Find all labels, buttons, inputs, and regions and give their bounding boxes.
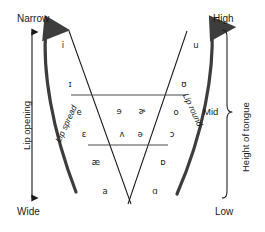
vowel-symbol-open-mid-back-unrounded: ʌ <box>119 130 124 139</box>
vowel-symbol-close-mid-front-unrounded: e <box>76 108 81 117</box>
vowel-symbol-mid-central-r-colored: ɚ <box>139 107 146 116</box>
vowel-symbol-close-mid-back-rounded: o <box>173 108 178 117</box>
height-of-tongue-brace <box>222 30 232 198</box>
vowel-symbol-open-back-unrounded: ɑ <box>152 187 157 196</box>
label-narrow: Narrow <box>17 14 49 24</box>
vowel-symbol-open-front-unrounded: a <box>102 187 107 196</box>
label-high: High <box>213 14 234 24</box>
vowel-symbol-mid-central-schwa: ə <box>137 130 142 139</box>
vowel-symbol-open-mid-front-unrounded: ɛ <box>82 130 87 139</box>
vowel-diagram-svg <box>0 0 265 232</box>
vowel-symbol-open-mid-back-rounded: ɔ <box>170 130 175 139</box>
vowel-chart-figure: Narrow Wide High Low Mid Lip opening Hei… <box>0 0 265 232</box>
vowel-symbol-close-back-rounded: u <box>193 41 198 50</box>
vowel-symbol-open-back-rounded: ɒ <box>160 158 165 167</box>
label-height-of-tongue: Height of tongue <box>241 102 251 172</box>
vowel-symbol-close-mid-central-unrounded: ɘ <box>116 107 121 116</box>
vowel-space-outline <box>69 31 187 204</box>
vowel-symbol-near-open-front-unrounded: æ <box>92 158 100 167</box>
label-wide: Wide <box>17 207 40 217</box>
label-mid: Mid <box>203 107 218 117</box>
vowel-symbol-near-close-back-rounded: ʊ <box>181 80 186 89</box>
vowel-symbol-near-close-front-unrounded: ɪ <box>68 80 71 89</box>
vowel-symbol-close-front-unrounded: i <box>62 41 64 50</box>
label-lip-opening: Lip opening <box>22 101 32 150</box>
label-low: Low <box>215 207 233 217</box>
